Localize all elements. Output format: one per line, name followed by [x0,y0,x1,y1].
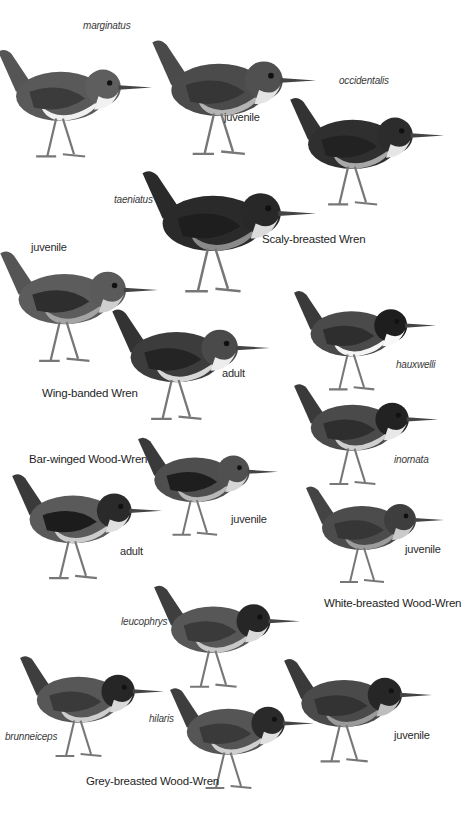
label-occidentalis: occidentalis [339,75,389,86]
label-white-breasted-juvenile: juvenile [405,543,441,555]
label-grey-breasted-juvenile: juvenile [394,729,430,741]
label-bar-winged-adult: adult [120,545,143,557]
species-name-wing-banded-wren: Wing-banded Wren [42,387,138,399]
species-name-white-breasted-wood-wren: White-breasted Wood-Wren [324,597,461,609]
label-hauxwelli: hauxwelli [396,359,435,370]
species-name-scaly-breasted-wren: Scaly-breasted Wren [262,233,365,245]
label-wing-banded-adult: adult [222,367,245,379]
illustration-plate: marginatus juvenile occidentalis taeniat… [0,0,472,814]
bird-grey-breasted-juvenile [282,648,432,772]
bird-taeniatus [140,166,316,296]
bird-wing-banded-adult [110,298,270,430]
label-wing-banded-juvenile: juvenile [31,241,67,253]
label-taeniatus: taeniatus [114,194,153,205]
bird-bar-winged-juvenile [136,424,278,548]
label-scaly-breasted-juvenile: juvenile [224,111,260,123]
bird-white-breasted-juvenile [304,472,444,596]
bird-marginatus [0,28,152,178]
label-bar-winged-juvenile: juvenile [231,513,267,525]
label-inornata: inornata [394,454,429,465]
label-leucophrys: leucophrys [121,616,167,627]
bird-brunneiceps [18,644,164,768]
label-hilaris: hilaris [149,713,174,724]
label-brunneiceps: brunneiceps [5,731,57,742]
label-marginatus: marginatus [83,20,130,31]
species-name-grey-breasted-wood-wren: Grey-breasted Wood-Wren [86,775,219,787]
